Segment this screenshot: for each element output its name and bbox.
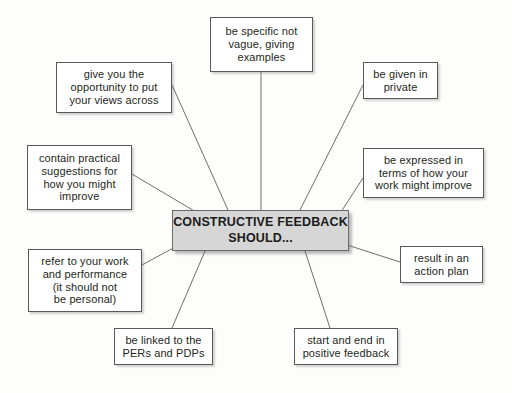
conn-be-expressed bbox=[341, 178, 363, 212]
node-label-be-linked-to-pers-pdps: be linked to the PERs and PDPs bbox=[118, 334, 208, 360]
node-label-be-specific: be specific not vague, giving examples bbox=[222, 25, 302, 64]
node-start-and-end-positive[interactable]: start and end in positive feedback bbox=[294, 328, 398, 365]
center-node-constructive-feedback[interactable]: CONSTRUCTIVE FEEDBACK SHOULD... bbox=[172, 210, 349, 251]
node-be-expressed-in-terms[interactable]: be expressed in terms of how your work m… bbox=[363, 148, 484, 198]
center-node-label: CONSTRUCTIVE FEEDBACK SHOULD... bbox=[173, 215, 348, 246]
node-result-in-action-plan[interactable]: result in an action plan bbox=[400, 246, 483, 283]
conn-start-end-positive bbox=[305, 251, 330, 328]
node-be-linked-to-pers-pdps[interactable]: be linked to the PERs and PDPs bbox=[114, 328, 213, 365]
conn-be-given-in-private bbox=[300, 85, 363, 210]
conn-result-in-action-plan bbox=[344, 244, 400, 262]
node-contain-practical-suggestions[interactable]: contain practical suggestions for how yo… bbox=[27, 145, 132, 210]
node-label-be-expressed-in-terms: be expressed in terms of how your work m… bbox=[371, 154, 476, 193]
node-label-contain-practical-suggestions: contain practical suggestions for how yo… bbox=[35, 152, 124, 204]
node-be-given-in-private[interactable]: be given in private bbox=[363, 62, 438, 99]
node-label-result-in-action-plan: result in an action plan bbox=[410, 252, 473, 278]
node-give-opportunity[interactable]: give you the opportunity to put your vie… bbox=[56, 62, 172, 113]
node-label-be-given-in-private: be given in private bbox=[369, 68, 431, 94]
conn-give-opportunity bbox=[172, 85, 228, 210]
diagram-canvas: be specific not vague, giving examplesgi… bbox=[0, 0, 512, 393]
node-refer-to-your-work[interactable]: refer to your work and performance (it s… bbox=[28, 249, 142, 312]
node-label-give-opportunity: give you the opportunity to put your vie… bbox=[65, 68, 162, 107]
node-be-specific[interactable]: be specific not vague, giving examples bbox=[210, 17, 313, 72]
conn-be-linked-pers bbox=[172, 251, 205, 328]
node-label-refer-to-your-work: refer to your work and performance (it s… bbox=[37, 255, 132, 307]
node-label-start-and-end-positive: start and end in positive feedback bbox=[299, 334, 394, 360]
conn-contain-practical bbox=[132, 174, 196, 212]
